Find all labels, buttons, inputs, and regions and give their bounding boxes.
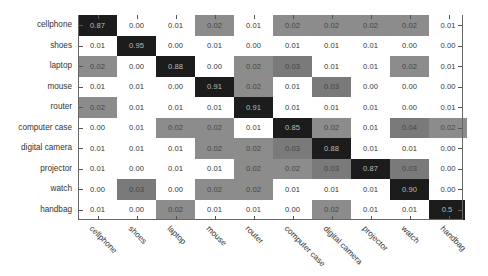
heatmap-cell: 0.01 [390,138,429,159]
heatmap-cell: 0.01 [312,97,351,118]
x-tick [449,216,450,220]
heatmap-cell: 0.02 [234,77,273,98]
y-axis-label: cellphone [2,20,72,29]
x-axis-label: handbag [439,224,468,253]
heatmap-cell: 0.03 [312,77,351,98]
x-tick [449,15,450,19]
x-tick [137,216,138,220]
heatmap-cell: 0.01 [78,159,117,180]
heatmap-cell: 0.01 [78,77,117,98]
heatmap-cell: 0.01 [117,97,156,118]
y-axis-label: shoes [2,41,72,50]
heatmap-cell: 0.01 [117,77,156,98]
x-tick [254,15,255,19]
heatmap-cell: 0.00 [351,77,390,98]
x-tick [176,216,177,220]
x-tick [371,15,372,19]
heatmap-cell: 0.85 [273,118,312,139]
heatmap-cell: 0.01 [351,36,390,57]
x-tick [98,15,99,19]
heatmap-cell: 0.01 [351,97,390,118]
heatmap-cell: 0.02 [195,118,234,139]
heatmap-cell: 0.00 [195,56,234,77]
heatmap-cell: 0.02 [78,56,117,77]
x-tick [293,15,294,19]
x-tick [332,15,333,19]
y-tick [458,46,462,47]
heatmap-cell: 0.03 [312,159,351,180]
x-tick [98,216,99,220]
heatmap-cell: 0.01 [351,56,390,77]
heatmap-cell: 0.01 [351,179,390,200]
heatmap-cell: 0.01 [312,179,351,200]
y-axis-label: router [2,102,72,111]
x-axis-label: mouse [205,224,229,248]
heatmap-cell: 0.02 [234,138,273,159]
heatmap-cell: 0.02 [78,97,117,118]
x-tick [371,216,372,220]
y-axis-label: watch [2,184,72,193]
heatmap-cell: 0.01 [156,138,195,159]
y-axis-label: computer case [2,123,72,132]
heatmap-cell: 0.00 [156,179,195,200]
y-tick [79,107,83,108]
heatmap-cell: 0.02 [156,118,195,139]
y-tick [79,25,83,26]
heatmap-cell: 0.04 [390,118,429,139]
heatmap-cell: 0.00 [390,77,429,98]
heatmap-cell: 0.01 [156,159,195,180]
x-tick [215,15,216,19]
heatmap-cell: 0.00 [78,118,117,139]
heatmap-cell: 0.03 [117,179,156,200]
heatmap-cell: 0.03 [273,138,312,159]
x-axis-label: projector [361,224,390,253]
heatmap-cell: 0.00 [156,36,195,57]
heatmap-cell: 0.01 [195,36,234,57]
heatmap-cell: 0.01 [195,97,234,118]
y-axis-label: projector [2,164,72,173]
y-tick [458,87,462,88]
y-tick [79,210,83,211]
y-tick [79,66,83,67]
confusion-matrix-heatmap: 0.870.000.010.020.010.020.020.020.020.01… [0,0,488,276]
heatmap-cell: 0.03 [273,56,312,77]
y-tick [79,46,83,47]
x-axis-label: watch [400,224,421,245]
x-tick [332,216,333,220]
heatmap-cell: 0.02 [312,118,351,139]
heatmap-cell: 0.01 [273,77,312,98]
heatmap-cell: 0.01 [273,97,312,118]
heatmap-cell: 0.00 [156,77,195,98]
heatmap-cell: 0.01 [117,138,156,159]
heatmap-cell: 0.02 [195,179,234,200]
y-axis-label: handbag [2,205,72,214]
x-axis-label: laptop [166,224,188,246]
x-tick [254,216,255,220]
heatmap-cell: 0.00 [117,159,156,180]
x-tick [410,216,411,220]
heatmap-cell: 0.01 [234,118,273,139]
y-tick [79,87,83,88]
heatmap-cell: 0.00 [390,97,429,118]
y-tick [458,210,462,211]
heatmap-cell: 0.01 [351,138,390,159]
x-tick [410,15,411,19]
heatmap-cell: 0.01 [195,159,234,180]
x-axis-label: cellphone [88,224,119,255]
x-tick [293,216,294,220]
heatmap-cell: 0.90 [390,179,429,200]
heatmap-cell: 0.01 [273,179,312,200]
heatmap-cell: 0.88 [156,56,195,77]
heatmap-cell: 0.00 [117,56,156,77]
heatmap-cell: 0.02 [390,56,429,77]
heatmap-cell: 0.01 [78,36,117,57]
heatmap-cell: 0.03 [390,159,429,180]
heatmap-cell: 0.02 [195,138,234,159]
x-axis-label: digital camera [322,224,364,266]
y-tick [458,25,462,26]
heatmap-cell: 0.00 [390,36,429,57]
y-tick [79,169,83,170]
y-tick [79,148,83,149]
y-tick [79,128,83,129]
heatmap-cell: 0.01 [156,97,195,118]
